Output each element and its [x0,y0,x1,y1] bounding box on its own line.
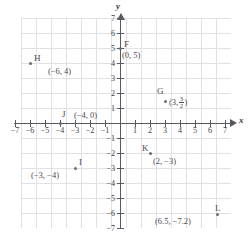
point-K-name: K [142,143,149,153]
point-K [149,152,152,155]
y-tick [117,153,124,154]
y-tick-label: −2 [101,149,115,158]
point-G-coord-suffix: ) [184,97,187,107]
point-G-coord-prefix: (3, [169,97,178,107]
y-tick-label: −7 [101,224,115,233]
y-tick [117,78,124,79]
y-tick-label: 6 [101,29,115,38]
point-L [216,213,219,216]
y-axis-label: y [116,1,120,11]
x-tick-label: 3 [157,126,173,135]
point-L-name: L [215,203,221,213]
y-tick [117,198,124,199]
x-tick-label: 5 [187,126,203,135]
point-G-fraction: 32 [179,96,184,110]
y-tick-label: 5 [101,44,115,53]
x-tick-label: −6 [22,126,38,135]
y-tick [117,33,124,34]
point-K-coord: (2, −3) [153,156,176,166]
y-tick [117,18,124,19]
y-tick-label: 3 [101,74,115,83]
y-tick [117,168,124,169]
y-tick-label: −4 [101,179,115,188]
point-I-coord: (−3, −4) [31,170,59,180]
y-tick [117,63,124,64]
x-tick-label: 4 [172,126,188,135]
x-axis-line [14,123,232,124]
y-tick [117,183,124,184]
y-tick-label: −3 [101,164,115,173]
y-tick-label: 1 [101,104,115,113]
point-J-coord: (−4, 0) [74,110,97,120]
y-tick [117,138,124,139]
point-G-coord: (3,32) [169,96,187,110]
y-tick [117,93,124,94]
point-F-name: F [124,39,129,49]
point-J-name: J [62,109,66,119]
fraction-denominator: 2 [179,102,184,110]
point-J [59,122,62,125]
y-tick-label: −1 [101,134,115,143]
x-tick-label: −2 [82,126,98,135]
y-tick [117,213,124,214]
x-tick-label: −5 [37,126,53,135]
x-tick-label: −3 [67,126,83,135]
point-L-coord: (6.5, −7.2) [155,216,191,226]
x-tick-label: 2 [142,126,158,135]
y-tick-label: 2 [101,89,115,98]
x-tick-label: 1 [127,126,143,135]
coordinate-plane: x y −7 −6 −5 −4 −3 −2 −1 1 2 3 4 5 6 7 7… [0,0,251,235]
x-tick-label: −7 [7,126,23,135]
y-tick-label: 4 [101,59,115,68]
point-G [164,100,167,103]
y-tick-label: −5 [101,194,115,203]
point-H-name: H [34,53,41,63]
point-I-name: I [79,157,82,167]
x-tick-label: 7 [217,126,233,135]
x-tick-label: 6 [202,126,218,135]
point-H-coord: (−6, 4) [48,66,71,76]
x-tick-label: −4 [52,126,68,135]
x-axis-label: x [239,115,244,125]
y-tick [117,108,124,109]
point-I [74,167,77,170]
point-H [29,62,32,65]
point-F-coord: (0, 5) [122,50,140,60]
point-G-name: G [157,86,164,96]
y-tick [117,228,124,229]
y-tick-label: −6 [101,209,115,218]
y-tick-label: 7 [101,14,115,23]
